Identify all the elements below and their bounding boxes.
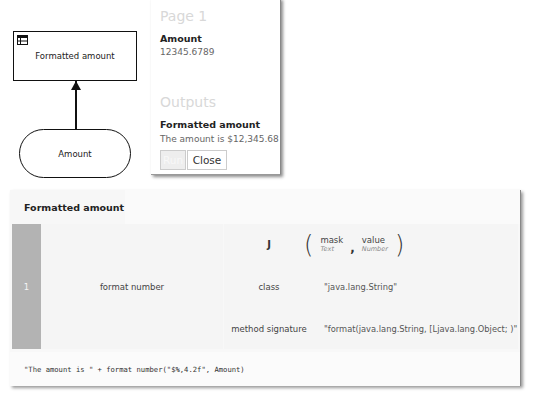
row-name-cell[interactable]: format number — [41, 224, 223, 349]
arrow-head-icon — [71, 81, 81, 90]
open-paren: ( — [304, 233, 313, 257]
entry-key-method-signature[interactable]: method signature — [224, 308, 314, 349]
page-title: Page 1 — [160, 8, 207, 24]
input-node-label: Amount — [58, 149, 91, 159]
outputs-title: Outputs — [160, 94, 216, 110]
close-button[interactable]: Close — [187, 150, 227, 170]
run-popup: Page 1 Amount 12345.6789 Outputs Formatt… — [151, 0, 281, 175]
invocation-kind[interactable]: J — [224, 224, 314, 265]
input-value-amount[interactable]: 12345.6789 — [160, 47, 214, 57]
input-label-amount: Amount — [160, 33, 202, 44]
decision-logic-panel: Formatted amount 1 format number J ( mas… — [10, 190, 521, 386]
result-expression[interactable]: "The amount is " + format number("$%,4.2… — [10, 352, 520, 386]
run-button[interactable]: Run — [160, 150, 186, 170]
parameter-value[interactable]: value Number — [362, 235, 388, 254]
parameter-mask[interactable]: mask Text — [320, 235, 343, 254]
logic-panel-title: Formatted amount — [10, 190, 125, 224]
entry-value-class[interactable]: "java.lang.String" — [324, 266, 397, 307]
close-paren: ) — [395, 233, 404, 257]
java-invocation-grid: J ( mask Text , value Number ) — [224, 224, 518, 349]
input-data-node-amount[interactable]: Amount — [19, 129, 131, 178]
invocation-row-method-signature: method signature "format(java.lang.Strin… — [224, 308, 518, 349]
java-function-kind: J — [267, 239, 271, 250]
decision-table-icon — [17, 35, 28, 45]
parameter-list[interactable]: ( mask Text , value Number ) — [304, 224, 404, 265]
invocation-header-row: J ( mask Text , value Number ) — [224, 224, 518, 265]
context-table: 1 format number J ( mask Text , value Nu… — [10, 224, 520, 352]
entry-value-method-signature[interactable]: "format(java.lang.String, [Ljava.lang.Ob… — [324, 308, 517, 349]
invocation-row-class: class "java.lang.String" — [224, 266, 518, 307]
parameter-separator: , — [350, 241, 355, 255]
decision-node-label: Formatted amount — [35, 51, 114, 61]
output-label-formatted-amount: Formatted amount — [160, 119, 260, 130]
decision-node-formatted-amount[interactable]: Formatted amount — [13, 31, 137, 81]
output-value-formatted-amount: The amount is $12,345.68 — [160, 134, 279, 144]
entry-key-class[interactable]: class — [224, 266, 314, 307]
row-number-cell[interactable]: 1 — [12, 224, 41, 349]
